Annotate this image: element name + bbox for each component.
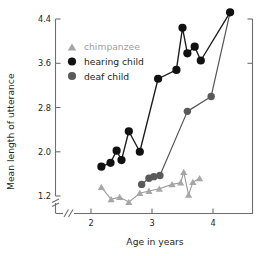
x-tick-label-3: 3 xyxy=(149,218,154,228)
series-hearing-point xyxy=(125,127,133,135)
series-chimpanzee-point xyxy=(196,175,203,181)
mean-length-of-utterance-chart: Mean length of utterance 4.4 3.6 2.8 2.0… xyxy=(0,0,271,256)
series-deaf-point xyxy=(184,108,191,115)
x-axis-ticks xyxy=(91,209,213,214)
y-tick-label-3-6: 3.6 xyxy=(38,58,51,68)
series-hearing-point xyxy=(136,148,144,156)
series-hearing-point xyxy=(113,147,121,155)
legend-circle-icon-deaf xyxy=(68,72,76,80)
series-chimpanzee-point xyxy=(180,169,187,175)
series-hearing-point xyxy=(117,156,125,164)
series-hearing-point xyxy=(197,56,205,64)
y-axis-title: Mean length of utterance xyxy=(5,73,16,190)
series-hearing-point xyxy=(178,24,186,32)
series-hearing-point xyxy=(97,163,105,171)
y-axis-ticks xyxy=(56,19,61,196)
series-hearing-child xyxy=(97,8,234,171)
legend-triangle-icon xyxy=(68,44,77,51)
x-axis-break-slash-1 xyxy=(64,210,69,218)
series-deaf-line xyxy=(142,12,230,184)
series-hearing-point xyxy=(154,75,162,83)
legend-label-deaf-child: deaf child xyxy=(84,71,129,82)
chart-legend: chimpanzee hearing child deaf child xyxy=(68,41,144,82)
legend-label-hearing-child: hearing child xyxy=(84,56,144,67)
series-chimpanzee xyxy=(98,169,203,205)
legend-item-chimpanzee[interactable]: chimpanzee xyxy=(68,41,140,52)
series-hearing-point xyxy=(172,66,180,74)
series-hearing-point xyxy=(183,49,191,57)
series-deaf-point xyxy=(156,172,163,179)
legend-circle-icon-hearing xyxy=(68,57,76,65)
series-deaf-point xyxy=(138,181,145,188)
x-tick-label-4: 4 xyxy=(210,218,215,228)
x-axis-break-slash-2 xyxy=(69,210,74,218)
series-hearing-point xyxy=(106,159,114,167)
legend-item-deaf-child[interactable]: deaf child xyxy=(68,71,129,82)
series-hearing-point xyxy=(191,43,199,51)
series-deaf-child xyxy=(138,9,234,188)
y-axis-break-slash-1 xyxy=(52,199,59,203)
chart-figure: Mean length of utterance 4.4 3.6 2.8 2.0… xyxy=(0,0,271,256)
x-axis-title: Age in years xyxy=(126,236,183,247)
legend-label-chimpanzee: chimpanzee xyxy=(84,41,140,52)
legend-item-hearing-child[interactable]: hearing child xyxy=(68,56,144,67)
series-chimpanzee-point xyxy=(185,191,192,197)
y-tick-label-2-0: 2.0 xyxy=(38,147,51,157)
series-chimpanzee-point xyxy=(156,185,163,191)
series-chimpanzee-point xyxy=(177,179,184,185)
series-hearing-line xyxy=(101,12,230,166)
series-chimpanzee-point xyxy=(116,194,123,200)
y-tick-label-1-2: 1.2 xyxy=(38,191,51,201)
y-tick-label-2-8: 2.8 xyxy=(38,103,51,113)
series-chimpanzee-point xyxy=(189,179,196,185)
series-hearing-point xyxy=(226,8,234,16)
series-chimpanzee-point xyxy=(98,184,105,190)
series-deaf-point xyxy=(207,93,214,100)
x-tick-label-2: 2 xyxy=(88,218,93,228)
y-tick-label-4-4: 4.4 xyxy=(38,14,51,24)
